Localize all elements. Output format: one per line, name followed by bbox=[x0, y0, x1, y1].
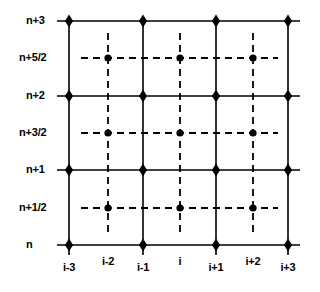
integer-node-marker-1-3 bbox=[284, 90, 292, 103]
staggered-node-marker-0-0 bbox=[104, 54, 111, 61]
y-axis-tick-label-2: n+2 bbox=[26, 90, 45, 101]
staggered-node-marker-0-2 bbox=[249, 54, 256, 61]
y-axis-tick-label-4: n+1 bbox=[26, 164, 45, 175]
y-axis-tick-label-0: n+3 bbox=[26, 15, 45, 26]
integer-node-marker-0-3 bbox=[284, 15, 292, 28]
grid-diagram-figure: n+3n+5/2n+2n+3/2n+1n+1/2n i-3i-2i-1ii+1i… bbox=[0, 0, 320, 292]
integer-node-marker-0-2 bbox=[212, 15, 220, 28]
integer-node-marker-1-1 bbox=[139, 90, 147, 103]
integer-node-marker-3-2 bbox=[212, 239, 220, 252]
integer-node-marker-3-0 bbox=[65, 239, 73, 252]
integer-node-marker-3-1 bbox=[139, 239, 147, 252]
staggered-node-marker-2-2 bbox=[249, 204, 256, 211]
staggered-node-marker-0-1 bbox=[176, 54, 183, 61]
staggered-node-markers bbox=[104, 54, 256, 211]
integer-node-marker-0-0 bbox=[65, 15, 73, 28]
integer-node-marker-0-1 bbox=[139, 15, 147, 28]
integer-node-marker-2-2 bbox=[212, 164, 220, 177]
staggered-node-marker-1-0 bbox=[104, 129, 111, 136]
y-axis-tick-label-6: n bbox=[26, 239, 33, 250]
integer-node-marker-3-3 bbox=[284, 239, 292, 252]
integer-node-marker-1-0 bbox=[65, 90, 73, 103]
staggered-node-marker-1-1 bbox=[176, 129, 183, 136]
integer-node-marker-2-1 bbox=[139, 164, 147, 177]
y-axis-tick-label-3: n+3/2 bbox=[19, 127, 46, 138]
grid-diagram-canvas bbox=[0, 0, 320, 292]
staggered-node-marker-1-2 bbox=[249, 129, 256, 136]
integer-node-marker-2-0 bbox=[65, 164, 73, 177]
staggered-node-marker-2-1 bbox=[176, 204, 183, 211]
integer-node-marker-1-2 bbox=[212, 90, 220, 103]
y-axis-tick-label-5: n+1/2 bbox=[19, 202, 46, 213]
y-axis-tick-label-1: n+5/2 bbox=[19, 52, 46, 63]
integer-node-marker-2-3 bbox=[284, 164, 292, 177]
staggered-node-marker-2-0 bbox=[104, 204, 111, 211]
x-axis-tick-label-6: i+3 bbox=[263, 262, 313, 273]
